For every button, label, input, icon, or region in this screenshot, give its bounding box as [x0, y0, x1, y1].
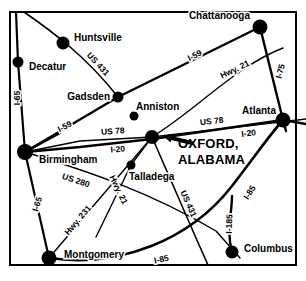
city-label-columbus: Columbus — [244, 243, 293, 254]
map-canvas: I-65I-65I-65I-65US 431US 431US 431US 431… — [0, 0, 306, 281]
city-node-montgomery[interactable] — [42, 251, 57, 266]
city-node-huntsville[interactable] — [57, 37, 70, 50]
city-node-anniston[interactable] — [130, 112, 139, 121]
city-node-gadsden[interactable] — [113, 92, 124, 103]
route-label-i-65-north: I-65 — [12, 90, 22, 105]
city-label-montgomery: Montgomery — [64, 249, 124, 260]
callout-line-1: OXFORD, — [178, 136, 239, 151]
city-label-talladega: Talladega — [129, 171, 175, 182]
city-label-gadsden: Gadsden — [67, 91, 110, 102]
route-label-us-78-west: US 78 — [101, 125, 126, 137]
city-node-talladega[interactable] — [127, 161, 136, 170]
city-label-decatur: Decatur — [29, 61, 66, 72]
oxford-alabama-map: I-65I-65I-65I-65US 431US 431US 431US 431… — [0, 0, 306, 281]
city-node-columbus[interactable] — [226, 246, 239, 259]
route-label-i-20-west: I-20 — [110, 143, 126, 154]
city-label-huntsville: Huntsville — [74, 32, 122, 43]
city-node-chattanooga[interactable] — [253, 20, 268, 35]
city-node-oxford[interactable] — [145, 130, 159, 144]
city-node-birmingham[interactable] — [17, 144, 33, 160]
city-label-atlanta: Atlanta — [242, 105, 276, 116]
route-label-i-185: I-185 — [224, 214, 235, 234]
city-label-birmingham: Birmingham — [39, 154, 97, 165]
city-node-decatur[interactable] — [13, 57, 24, 68]
city-node-atlanta[interactable] — [276, 113, 291, 128]
route-label-i-20-east: I-20 — [241, 127, 257, 139]
callout-line-2: ALABAMA — [178, 152, 246, 167]
city-label-anniston: Anniston — [136, 101, 179, 112]
city-label-chattanooga: Chattanooga — [189, 10, 251, 21]
